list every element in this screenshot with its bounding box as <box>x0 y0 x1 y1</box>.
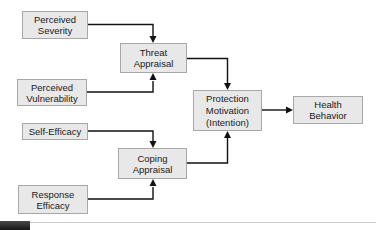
node-label: Coping Appraisal <box>133 153 173 175</box>
node-perceived-severity: Perceived Severity <box>22 11 88 39</box>
node-coping-appraisal: Coping Appraisal <box>118 148 187 179</box>
arrowhead-down-icon <box>150 36 157 43</box>
connector-threat-to-protection <box>187 59 231 91</box>
figure-bottom-rule <box>0 222 376 223</box>
node-label: Health Behavior <box>309 99 347 121</box>
arrowhead-right-icon <box>286 107 293 114</box>
connector-self-efficacy-to-coping <box>88 131 157 148</box>
node-health-behavior: Health Behavior <box>293 96 363 124</box>
arrowhead-down-icon <box>150 141 157 148</box>
node-label: Self-Efficacy <box>29 126 82 137</box>
connector-response-efficacy-to-coping <box>88 179 157 199</box>
connector-coping-to-protection <box>187 131 231 163</box>
arrowhead-up-icon <box>150 179 157 186</box>
connector-vulnerability-to-threat <box>87 73 157 92</box>
node-self-efficacy: Self-Efficacy <box>22 123 88 140</box>
node-label: Protection Motivation (Intention) <box>206 93 249 129</box>
connector-severity-to-threat <box>88 25 157 44</box>
figure-corner-bar <box>0 221 30 230</box>
node-perceived-vulnerability: Perceived Vulnerability <box>17 79 87 106</box>
node-label: Perceived Severity <box>34 14 76 36</box>
node-threat-appraisal: Threat Appraisal <box>120 43 187 73</box>
arrowhead-up-icon <box>224 131 231 138</box>
connector-protection-to-health <box>262 107 293 114</box>
node-response-efficacy: Response Efficacy <box>18 185 88 214</box>
node-label: Response Efficacy <box>32 189 75 211</box>
arrowhead-up-icon <box>150 73 157 80</box>
protection-motivation-diagram: Perceived Severity Threat Appraisal Perc… <box>0 0 376 230</box>
arrowhead-down-icon <box>224 83 231 90</box>
node-label: Perceived Vulnerability <box>26 82 77 104</box>
node-protection-motivation: Protection Motivation (Intention) <box>193 90 262 131</box>
node-label: Threat Appraisal <box>134 47 174 69</box>
